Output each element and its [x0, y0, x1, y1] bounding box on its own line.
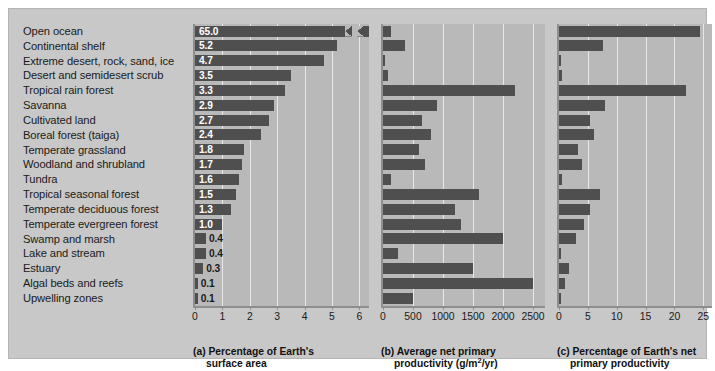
caption-b: (b) Average net primary productivity (g/…: [381, 346, 498, 371]
bar-value-label: 0.1: [201, 293, 215, 304]
bar: [195, 248, 206, 259]
bar: [195, 55, 324, 66]
axis-tick: [413, 306, 414, 310]
axis-tick: [533, 306, 534, 310]
bar: [559, 85, 686, 96]
gridline: [332, 24, 333, 306]
biome-label: Temperate deciduous forest: [23, 202, 185, 217]
bar-value-label: 1.6: [199, 174, 213, 185]
gridline: [646, 24, 647, 306]
bar-value-label: 1.3: [199, 204, 213, 215]
axis-tick: [473, 306, 474, 310]
bar: [383, 144, 419, 155]
biome-label: Cultivated land: [23, 113, 185, 128]
bar-value-label: 2.9: [199, 100, 213, 111]
bar: [383, 174, 391, 185]
biome-label: Boreal forest (taiga): [23, 128, 185, 143]
caption-a-line1: (a) Percentage of Earth's: [193, 346, 314, 357]
caption-c-line2: primary productivity: [557, 358, 696, 370]
axis-tick: [443, 306, 444, 310]
axis-tick: [195, 306, 196, 310]
bar-value-label: 2.4: [199, 129, 213, 140]
biome-label: Continental shelf: [23, 39, 185, 54]
x-axis-b: 05001000150020002500: [381, 306, 545, 326]
axis-tick: [305, 306, 306, 310]
plot-area-c: [557, 24, 712, 306]
axis-tick: [222, 306, 223, 310]
axis-tick-label: 10: [611, 311, 623, 322]
plot-area-b: [381, 24, 545, 306]
caption-a-line2: surface area: [193, 358, 314, 370]
bar: [383, 55, 385, 66]
bar: [383, 293, 413, 304]
gridline: [588, 24, 589, 306]
bar: [383, 115, 422, 126]
bar-value-label: 1.7: [199, 159, 213, 170]
axis-tick-label: 2500: [521, 311, 544, 322]
axis-tick-label: 2: [247, 311, 253, 322]
bar: [195, 278, 198, 289]
axis-tick-label: 3: [274, 311, 280, 322]
bar: [383, 233, 503, 244]
bar: [559, 278, 565, 289]
axis-tick: [703, 306, 704, 310]
figure-frame: Open oceanContinental shelfExtreme deser…: [8, 8, 707, 359]
biome-label: Temperate grassland: [23, 143, 185, 158]
bar: [383, 26, 391, 37]
bar-value-label: 0.1: [201, 278, 215, 289]
axis-line-c: [557, 306, 712, 308]
axis-tick-label: 1000: [431, 311, 454, 322]
bar: [559, 204, 590, 215]
bar: [383, 159, 425, 170]
bar: [559, 263, 569, 274]
axis-tick-label: 2000: [491, 311, 514, 322]
biome-label: Tropical seasonal forest: [23, 187, 185, 202]
axis-tick: [617, 306, 618, 310]
biome-label: Lake and stream: [23, 246, 185, 261]
caption-a: (a) Percentage of Earth's surface area: [193, 346, 314, 371]
biome-label: Estuary: [23, 261, 185, 276]
bar: [559, 115, 590, 126]
bar: [559, 144, 578, 155]
biome-label: Savanna: [23, 98, 185, 113]
caption-c-line1: (c) Percentage of Earth's net: [557, 346, 696, 357]
caption-b-line2-post: /yr): [482, 358, 498, 369]
bar-value-label: 5.2: [199, 40, 213, 51]
axis-tick-label: 15: [640, 311, 652, 322]
bar: [559, 70, 562, 81]
caption-c: (c) Percentage of Earth's net primary pr…: [557, 346, 696, 371]
axis-tick: [646, 306, 647, 310]
bar: [383, 189, 479, 200]
axis-tick-label: 1: [220, 311, 226, 322]
bar-value-label: 0.3: [206, 263, 220, 274]
gridline: [703, 24, 704, 306]
bar: [383, 263, 473, 274]
biome-label: Temperate evergreen forest: [23, 217, 185, 232]
axis-tick: [359, 306, 360, 310]
gridline: [473, 24, 474, 306]
axis-tick-label: 4: [302, 311, 308, 322]
bar: [383, 40, 405, 51]
biome-label: Upwelling zones: [23, 291, 185, 306]
gridline: [250, 24, 251, 306]
axis-tick-label: 500: [404, 311, 421, 322]
biome-label: Woodland and shrubland: [23, 157, 185, 172]
caption-b-line2: productivity (g/m2/yr): [381, 358, 498, 370]
chart-panel-b: 05001000150020002500 (b) Average net pri…: [381, 24, 545, 306]
gridline: [305, 24, 306, 306]
bar-value-label: 1.8: [199, 144, 213, 155]
x-axis-c: 0510152025: [557, 306, 712, 326]
axis-tick: [277, 306, 278, 310]
biome-label: Desert and semidesert scrub: [23, 68, 185, 83]
bar-value-label: 1.0: [199, 219, 213, 230]
bar: [383, 204, 455, 215]
biome-label: Tundra: [23, 172, 185, 187]
bar-value-label: 65.0: [199, 26, 218, 37]
bar-value-label: 1.5: [199, 189, 213, 200]
bar: [559, 159, 582, 170]
bar: [559, 55, 561, 66]
bar: [195, 293, 198, 304]
bar: [383, 219, 461, 230]
gridline: [503, 24, 504, 306]
axis-tick: [588, 306, 589, 310]
